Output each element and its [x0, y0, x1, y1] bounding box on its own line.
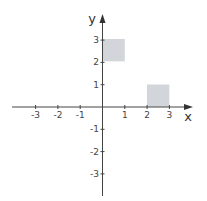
y-tick-label: -2: [90, 147, 99, 157]
y-tick-label: -3: [90, 169, 99, 179]
y-axis-arrow-icon: [100, 14, 106, 23]
plot-svg: -3 -2 -1 1 2 3 3 2 1 -1 -2 -3 x y: [0, 0, 207, 201]
x-tick-label: 2: [144, 110, 150, 120]
y-axis-label: y: [88, 11, 96, 26]
y-tick-label: 1: [93, 80, 99, 90]
coordinate-plane: -3 -2 -1 1 2 3 3 2 1 -1 -2 -3 x y: [0, 0, 207, 201]
x-tick-label: -3: [31, 110, 40, 120]
y-tick-label: -1: [90, 124, 99, 134]
x-tick-label: -2: [53, 110, 62, 120]
y-tick-label: 2: [93, 57, 99, 67]
shaded-square-1: [103, 39, 125, 61]
x-axis-label: x: [184, 109, 192, 124]
shaded-square-2: [147, 85, 169, 107]
x-tick-label: 1: [122, 110, 128, 120]
y-tick-label: 3: [93, 35, 99, 45]
x-tick-label: -1: [76, 110, 85, 120]
x-tick-label: 3: [167, 110, 173, 120]
